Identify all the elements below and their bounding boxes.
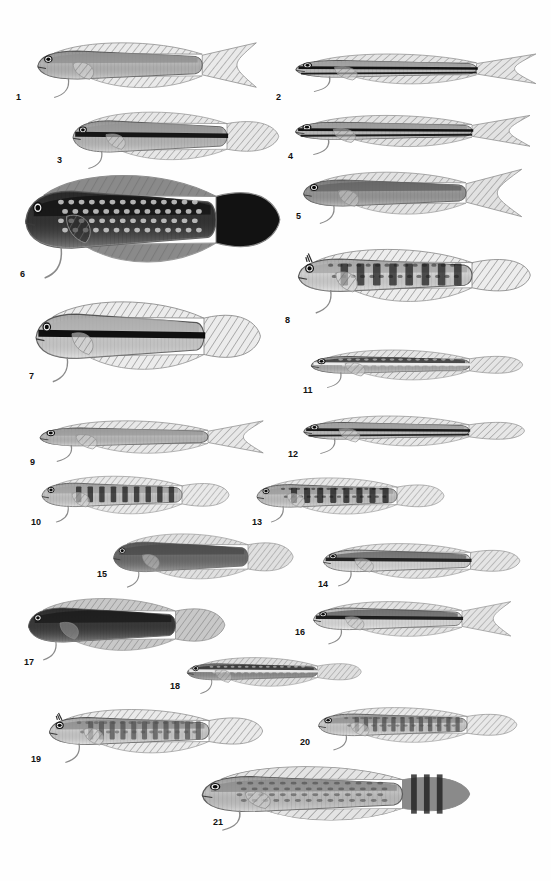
fish-illustration-9 bbox=[28, 410, 268, 462]
fish-illustration-15 bbox=[104, 530, 296, 582]
fish-number-label-12: 12 bbox=[288, 450, 298, 459]
fish-number-label-13: 13 bbox=[252, 518, 262, 527]
fish-illustration-8 bbox=[286, 238, 534, 310]
fish-number-label-5: 5 bbox=[296, 212, 301, 221]
fish-illustration-4 bbox=[283, 105, 535, 155]
fish-number-label-18: 18 bbox=[170, 682, 180, 691]
fish-illustration-2 bbox=[283, 44, 541, 92]
fish-number-label-7: 7 bbox=[29, 372, 34, 381]
fish-illustration-14 bbox=[313, 536, 523, 584]
fish-number-label-10: 10 bbox=[31, 518, 41, 527]
fish-illustration-1 bbox=[26, 33, 261, 95]
fish-number-label-1: 1 bbox=[16, 93, 21, 102]
fish-identification-plate: 123456781191210131514171618192021 bbox=[0, 0, 551, 881]
fish-illustration-5 bbox=[292, 163, 524, 221]
fish-illustration-16 bbox=[303, 594, 515, 642]
fish-number-label-16: 16 bbox=[295, 628, 305, 637]
fish-number-label-21: 21 bbox=[213, 818, 223, 827]
fish-number-label-11: 11 bbox=[303, 386, 313, 395]
fish-illustration-6 bbox=[12, 168, 284, 268]
fish-illustration-11 bbox=[300, 340, 526, 388]
fish-illustration-7 bbox=[24, 296, 264, 374]
fish-number-label-17: 17 bbox=[24, 658, 34, 667]
fish-number-label-15: 15 bbox=[97, 570, 107, 579]
fish-number-label-8: 8 bbox=[285, 316, 290, 325]
fish-illustration-19 bbox=[38, 700, 266, 760]
fish-illustration-10 bbox=[32, 468, 232, 520]
fish-illustration-3 bbox=[62, 108, 282, 163]
fish-illustration-18 bbox=[178, 648, 364, 694]
fish-number-label-3: 3 bbox=[57, 156, 62, 165]
fish-illustration-13 bbox=[247, 470, 447, 520]
fish-number-label-4: 4 bbox=[288, 152, 293, 161]
fish-number-label-19: 19 bbox=[31, 755, 41, 764]
fish-number-label-14: 14 bbox=[318, 580, 328, 589]
fish-number-label-20: 20 bbox=[300, 738, 310, 747]
fish-number-label-2: 2 bbox=[276, 93, 281, 102]
fish-number-label-9: 9 bbox=[30, 458, 35, 467]
fish-illustration-17 bbox=[18, 594, 228, 654]
fish-illustration-21 bbox=[188, 762, 474, 824]
fish-illustration-12 bbox=[292, 406, 528, 454]
fish-number-label-6: 6 bbox=[20, 270, 25, 279]
fish-illustration-20 bbox=[308, 700, 520, 748]
